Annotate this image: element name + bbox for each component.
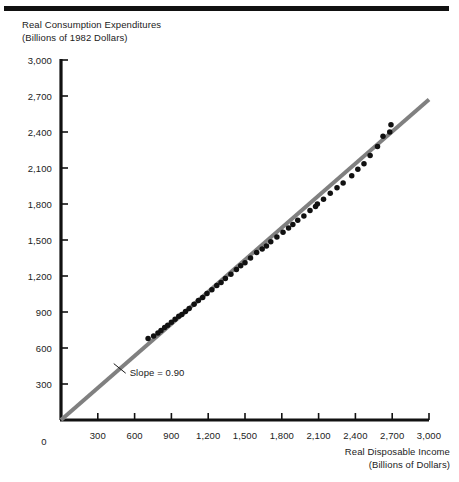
data-point [209,287,215,293]
data-point [290,222,296,228]
data-points-group [145,122,393,341]
data-point [361,161,367,167]
data-point [321,196,327,202]
y-tick-label: 2,700 [28,91,52,102]
x-tick-label: 600 [127,430,143,441]
y-tick-label: 600 [36,343,52,354]
x-tick-label: 3,000 [417,430,441,441]
x-tick-label: 300 [90,430,106,441]
slope-annotation-label: Slope = 0.90 [130,367,185,378]
y-tick-label: 2,400 [28,127,52,138]
data-point [315,201,321,207]
scatter-plot-canvas [0,0,459,482]
x-tick-label: 2,700 [380,430,404,441]
data-point [191,301,197,307]
regression-line-segment [61,100,429,420]
data-point [349,173,355,179]
x-tick-label: 2,100 [306,430,330,441]
data-point [375,144,381,150]
y-tick-label: 300 [36,379,52,390]
data-point [264,243,270,249]
data-point [367,153,373,159]
axis-group [60,59,429,420]
data-point [186,306,192,312]
data-point [301,213,307,219]
data-point [228,271,234,277]
x-tick-label: 1,200 [196,430,220,441]
data-point [307,208,313,214]
data-point [286,225,292,231]
data-point [355,166,361,172]
data-point [242,260,248,266]
data-point [340,180,346,186]
data-point [387,129,393,135]
data-point [204,291,210,297]
y-tick-label: 1,500 [28,235,52,246]
x-tick-label: 2,400 [343,430,367,441]
data-point [234,267,240,273]
data-point [254,250,260,256]
y-tick-label: 0 [41,436,46,447]
data-point [280,229,286,235]
y-tick-label: 900 [36,307,52,318]
data-point [223,276,229,282]
data-point [388,122,394,128]
data-point [380,133,386,139]
data-point [268,239,274,245]
y-tick-label: 3,000 [28,55,52,66]
data-point [334,185,340,191]
data-point [145,336,151,342]
data-point [274,234,280,240]
data-point [248,255,254,261]
x-tick-label: 1,800 [270,430,294,441]
regression-line [61,100,429,420]
x-tick-label: 1,500 [233,430,257,441]
data-point [328,190,334,196]
y-tick-label: 1,800 [28,199,52,210]
data-point [218,280,224,286]
x-tick-label: 900 [163,430,179,441]
y-tick-label: 2,100 [28,163,52,174]
data-point [295,217,301,223]
x-axis-title: Real Disposable Income (Billions of Doll… [345,446,450,471]
data-point [200,295,206,301]
y-tick-label: 1,200 [28,271,52,282]
